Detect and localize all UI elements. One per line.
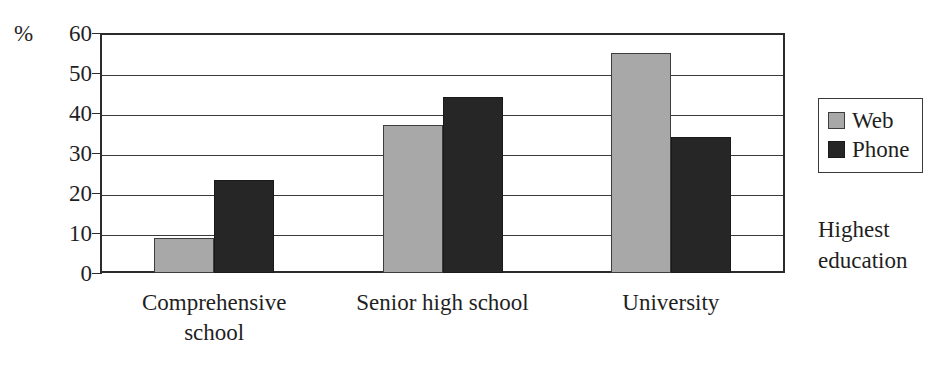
bar-phone-comprehensive-school[interactable]: [214, 180, 274, 273]
x-axis-label-line: University: [546, 288, 796, 318]
x-axis-title-line: education: [818, 245, 907, 276]
y-axis-tick-label: 60: [40, 22, 92, 45]
y-axis-tick-label: 30: [40, 142, 92, 165]
x-axis-category-labels: ComprehensiveschoolSenior high schoolUni…: [100, 288, 785, 372]
y-axis-tick-label: 0: [40, 262, 92, 285]
y-axis-tick-label: 10: [40, 222, 92, 245]
bar-phone-university[interactable]: [671, 137, 731, 273]
legend-entry-web[interactable]: Web: [828, 106, 910, 135]
legend-label: Phone: [852, 138, 910, 161]
bar-web-university[interactable]: [611, 53, 671, 273]
bar-group: [383, 33, 503, 273]
bar-web-comprehensive-school[interactable]: [154, 238, 214, 273]
bar-chart: % 6050403020100 ComprehensiveschoolSenio…: [0, 0, 943, 378]
bar-group: [611, 33, 731, 273]
x-axis-title-line: Highest: [818, 214, 907, 245]
y-axis-tick-labels: 6050403020100: [40, 20, 92, 286]
x-axis-label-senior-high-school: Senior high school: [318, 288, 568, 318]
legend: WebPhone: [818, 98, 923, 173]
x-axis-title: Highesteducation: [818, 214, 907, 276]
x-axis-label-university: University: [546, 288, 796, 318]
y-axis-tick-label: 40: [40, 102, 92, 125]
bar-web-senior-high-school[interactable]: [383, 125, 443, 273]
legend-entry-phone[interactable]: Phone: [828, 135, 910, 164]
bars-layer: [100, 33, 785, 273]
legend-label: Web: [852, 109, 894, 132]
legend-swatch-phone-icon: [828, 141, 845, 158]
y-axis-tick-label: 50: [40, 62, 92, 85]
x-axis-label-line: Senior high school: [318, 288, 568, 318]
x-axis-label-comprehensive-school: Comprehensiveschool: [89, 288, 339, 348]
y-axis-unit-label: %: [14, 22, 33, 45]
legend-swatch-web-icon: [828, 112, 845, 129]
bar-phone-senior-high-school[interactable]: [443, 97, 503, 273]
y-axis-tick-label: 20: [40, 182, 92, 205]
x-axis-label-line: school: [89, 318, 339, 348]
y-axis-tick-mark: [92, 273, 102, 274]
bar-group: [154, 33, 274, 273]
x-axis-label-line: Comprehensive: [89, 288, 339, 318]
